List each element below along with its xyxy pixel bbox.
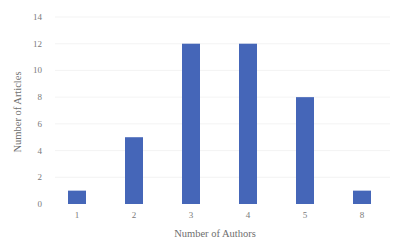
x-tick-label: 2 [132, 210, 137, 220]
y-tick-label: 0 [38, 199, 43, 209]
gridlines [55, 17, 390, 177]
bar [353, 191, 371, 204]
x-tick-label: 8 [360, 210, 365, 220]
x-tick-label: 1 [75, 210, 80, 220]
y-tick-label: 2 [38, 172, 43, 182]
y-axis-ticks: 02468101214 [33, 12, 43, 209]
x-tick-label: 4 [246, 210, 251, 220]
bar-chart: 02468101214 123458 Number of Authors Num… [0, 0, 393, 250]
y-tick-label: 4 [38, 146, 43, 156]
y-tick-label: 6 [38, 119, 43, 129]
bar [182, 44, 200, 204]
y-tick-label: 14 [33, 12, 43, 22]
x-tick-label: 5 [303, 210, 308, 220]
y-tick-label: 10 [33, 65, 43, 75]
x-tick-label: 3 [189, 210, 194, 220]
y-tick-label: 8 [38, 92, 43, 102]
bar [68, 191, 86, 204]
x-axis-ticks: 123458 [75, 210, 365, 220]
bar [125, 137, 143, 204]
y-axis-title: Number of Articles [12, 71, 23, 152]
y-tick-label: 12 [33, 39, 42, 49]
bar [239, 44, 257, 204]
bar [296, 97, 314, 204]
x-axis-title: Number of Authors [174, 228, 256, 239]
